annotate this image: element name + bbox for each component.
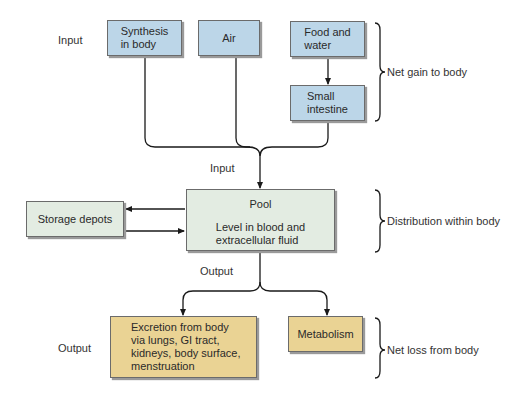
food-water-label: Food and water bbox=[304, 26, 350, 52]
storage-depots-label: Storage depots bbox=[38, 213, 113, 226]
distribution-label: Distribution within body bbox=[387, 215, 500, 228]
synthesis-label: Synthesis in body bbox=[121, 25, 169, 51]
net-loss-label: Net loss from body bbox=[387, 344, 479, 357]
output-center-label: Output bbox=[200, 265, 233, 278]
pool-box: Pool Level in blood and extracellular fl… bbox=[186, 189, 335, 251]
storage-depots-box: Storage depots bbox=[26, 201, 124, 237]
excretion-box: Excretion from body via lungs, GI tract,… bbox=[110, 316, 257, 378]
air-label: Air bbox=[222, 32, 235, 45]
excretion-label: Excretion from body via lungs, GI tract,… bbox=[131, 321, 240, 373]
metabolism-box: Metabolism bbox=[288, 316, 363, 352]
air-box: Air bbox=[198, 20, 260, 56]
synthesis-box: Synthesis in body bbox=[107, 20, 182, 56]
net-gain-label: Net gain to body bbox=[387, 66, 467, 79]
output-row-label: Output bbox=[58, 342, 91, 355]
pool-detail: Level in blood and extracellular fluid bbox=[216, 221, 305, 247]
input-row-label: Input bbox=[58, 34, 82, 47]
input-center-label: Input bbox=[210, 162, 234, 175]
food-water-box: Food and water bbox=[290, 21, 365, 57]
metabolism-label: Metabolism bbox=[297, 328, 353, 341]
small-intestine-box: Small intestine bbox=[290, 85, 365, 121]
small-intestine-label: Small intestine bbox=[307, 90, 348, 116]
pool-title: Pool bbox=[249, 198, 271, 211]
